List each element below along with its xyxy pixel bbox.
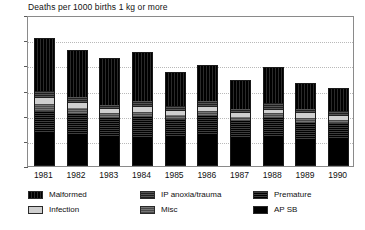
legend-swatch	[253, 206, 268, 214]
bar-segment	[264, 118, 283, 136]
bar-segment	[166, 137, 185, 165]
x-tick-label: 1981	[27, 170, 60, 180]
bar-segment	[329, 139, 348, 165]
legend-label: Premature	[274, 190, 311, 199]
bar-group[interactable]	[34, 15, 55, 166]
legend-swatch	[28, 206, 43, 214]
legend-entry[interactable]: IP anoxia/trauma	[140, 190, 221, 199]
legend-entry[interactable]: Infection	[28, 205, 79, 214]
plot-area	[27, 16, 354, 167]
y-tick-mark	[24, 167, 28, 168]
x-tick-label: 1987	[223, 170, 256, 180]
bar-segment	[100, 118, 119, 137]
bar-group[interactable]	[263, 15, 284, 166]
bar-segment	[198, 66, 217, 101]
stacked-bar[interactable]	[132, 52, 153, 167]
x-tick-label: 1986	[191, 170, 224, 180]
bar-group[interactable]	[165, 15, 186, 166]
bar-segment	[264, 68, 283, 104]
bar-segment	[296, 84, 315, 109]
bar-group[interactable]	[295, 15, 316, 166]
x-tick-label: 1985	[158, 170, 191, 180]
bar-segment	[68, 135, 87, 165]
legend-label: IP anoxia/trauma	[161, 190, 221, 199]
legend-swatch	[253, 191, 268, 199]
x-tick-label: 1990	[321, 170, 354, 180]
stacked-bar[interactable]	[295, 83, 316, 166]
chart-figure: Deaths per 1000 births 1 kg or more 0246…	[0, 0, 365, 230]
chart-legend: MalformedInfectionIP anoxia/traumaMiscPr…	[28, 190, 358, 224]
bar-group[interactable]	[197, 15, 218, 166]
legend-swatch	[140, 206, 155, 214]
bar-segment	[35, 111, 54, 133]
stacked-bar[interactable]	[230, 80, 251, 166]
bar-segment	[35, 133, 54, 165]
stacked-bar[interactable]	[263, 67, 284, 166]
legend-label: AP SB	[274, 205, 297, 214]
bar-segment	[296, 140, 315, 165]
bar-group[interactable]	[230, 15, 251, 166]
legend-entry[interactable]: Misc	[140, 205, 177, 214]
bar-group[interactable]	[328, 15, 349, 166]
stacked-bar[interactable]	[67, 50, 88, 166]
bar-segment	[329, 89, 348, 111]
bar-segment	[264, 137, 283, 165]
legend-label: Misc	[161, 205, 177, 214]
legend-swatch	[28, 191, 43, 199]
bar-segment	[231, 138, 250, 165]
x-tick-label: 1982	[60, 170, 93, 180]
plot-inner	[28, 17, 353, 166]
x-tick-label: 1989	[289, 170, 322, 180]
legend-label: Malformed	[49, 190, 87, 199]
stacked-bar[interactable]	[99, 58, 120, 166]
stacked-bar[interactable]	[328, 88, 349, 166]
bar-group[interactable]	[132, 15, 153, 166]
chart-title: Deaths per 1000 births 1 kg or more	[28, 2, 168, 12]
legend-entry[interactable]: Premature	[253, 190, 311, 199]
stacked-bar[interactable]	[197, 65, 218, 166]
legend-swatch	[140, 191, 155, 199]
bar-segment	[231, 121, 250, 138]
stacked-bar[interactable]	[34, 38, 55, 166]
bar-group[interactable]	[67, 15, 88, 166]
legend-entry[interactable]: AP SB	[253, 205, 297, 214]
stacked-bar[interactable]	[165, 72, 186, 166]
x-tick-label: 1988	[256, 170, 289, 180]
bar-group[interactable]	[99, 15, 120, 166]
legend-label: Infection	[49, 205, 79, 214]
bar-segment	[198, 116, 217, 136]
bar-segment	[35, 39, 54, 91]
bar-segment	[68, 114, 87, 135]
bar-segment	[329, 123, 348, 139]
x-tick-label: 1983	[92, 170, 125, 180]
legend-entry[interactable]: Malformed	[28, 190, 87, 199]
bar-segment	[133, 138, 152, 165]
bar-segment	[133, 117, 152, 138]
bar-segment	[166, 73, 185, 106]
bar-segment	[231, 81, 250, 108]
bar-segment	[198, 135, 217, 165]
bar-segment	[100, 137, 119, 165]
bar-segment	[296, 123, 315, 140]
bar-segment	[133, 53, 152, 101]
bar-segment	[35, 91, 54, 98]
bar-segment	[166, 119, 185, 136]
bar-segment	[68, 51, 87, 97]
bar-segment	[100, 59, 119, 105]
x-tick-label: 1984	[125, 170, 158, 180]
